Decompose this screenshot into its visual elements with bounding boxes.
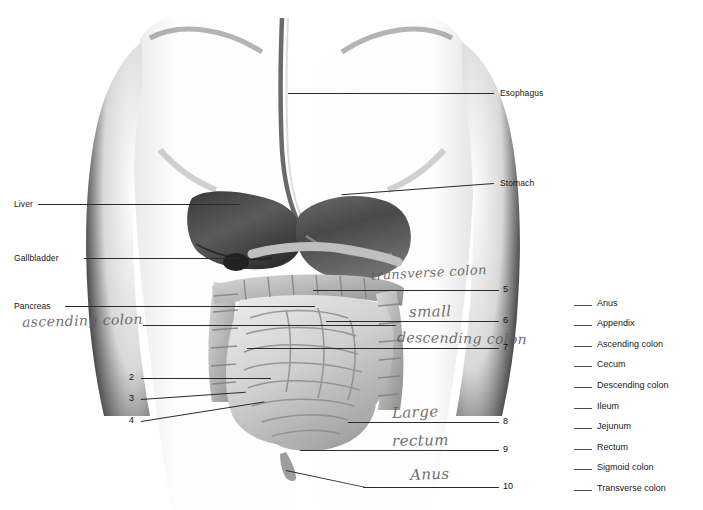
label-stomach: Stomach	[500, 178, 534, 188]
handwritten-answer-descending-colon: descending colon	[397, 329, 527, 347]
word-bank-item-descending-colon[interactable]: Descending colon	[574, 370, 700, 391]
gallbladder-organ	[223, 253, 249, 271]
callout-number-5: 5	[503, 284, 508, 294]
word-bank-item-cecum[interactable]: Cecum	[574, 350, 700, 371]
answer-blank-line[interactable]	[574, 359, 592, 367]
answer-blank-line[interactable]	[574, 421, 592, 429]
leader-line-5	[313, 290, 499, 291]
answer-blank-line[interactable]	[574, 339, 592, 347]
answer-blank-line[interactable]	[574, 483, 592, 491]
leader-line-8	[348, 422, 499, 423]
leader-line-ascending-colon	[143, 325, 396, 326]
word-bank-item-appendix[interactable]: Appendix	[574, 309, 700, 330]
handwritten-answer-small: small	[409, 302, 452, 321]
word-bank-item-rectum[interactable]: Rectum	[574, 432, 700, 453]
leader-line-7	[247, 348, 499, 349]
word-bank-item-anus[interactable]: Anus	[574, 288, 700, 309]
answer-blank-line[interactable]	[574, 318, 592, 326]
callout-number-10: 10	[503, 481, 513, 491]
callout-number-2: 2	[129, 372, 134, 382]
handwritten-answer-rectum: rectum	[392, 431, 449, 450]
answer-blank-line[interactable]	[574, 380, 592, 388]
answer-blank-line[interactable]	[574, 401, 592, 409]
word-bank-item-transverse-colon[interactable]: Transverse colon	[574, 473, 700, 494]
answer-blank-line[interactable]	[574, 298, 592, 306]
label-liver: Liver	[14, 199, 33, 209]
leader-line-gallbladder	[84, 258, 240, 259]
label-pancreas: Pancreas	[14, 301, 51, 311]
callout-number-3: 3	[129, 393, 134, 403]
word-bank-item-sigmoid-colon[interactable]: Sigmoid colon	[574, 453, 700, 474]
worksheet-page: Esophagus Stomach Liver Gallbladder Panc…	[0, 0, 703, 510]
word-bank-item-ascending-colon[interactable]: Ascending colon	[574, 329, 700, 350]
word-bank-item-jejunum[interactable]: Jejunum	[574, 412, 700, 433]
leader-line-10-tail	[363, 487, 499, 488]
handwritten-answer-large: Large	[392, 402, 439, 422]
callout-number-4: 4	[129, 415, 134, 425]
handwritten-answer-anus: Anus	[410, 465, 450, 484]
leader-line-esophagus	[288, 93, 494, 94]
label-esophagus: Esophagus	[500, 88, 543, 98]
leader-line-liver	[38, 204, 240, 205]
leader-line-2	[141, 378, 271, 379]
label-gallbladder: Gallbladder	[14, 253, 59, 263]
callout-number-9: 9	[503, 444, 508, 454]
word-bank-list: Anus Appendix Ascending colon Cecum Desc…	[574, 288, 700, 494]
answer-blank-line[interactable]	[574, 462, 592, 470]
word-bank-item-ileum[interactable]: Ileum	[574, 391, 700, 412]
leader-line-9	[300, 450, 499, 451]
leader-line-pancreas	[65, 306, 315, 307]
handwritten-answer-ascending-colon: ascending colon	[22, 311, 143, 330]
leader-line-6	[326, 321, 499, 322]
callout-number-8: 8	[503, 416, 508, 426]
callout-number-6: 6	[503, 315, 508, 325]
answer-blank-line[interactable]	[574, 442, 592, 450]
